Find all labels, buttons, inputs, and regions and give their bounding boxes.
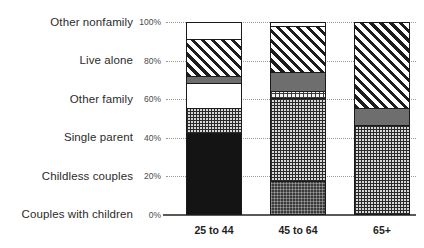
segment-single-parent <box>271 73 325 92</box>
segment-live-alone <box>187 40 241 76</box>
bar-25-to-44[interactable] <box>186 22 242 215</box>
segment-couples-with-children <box>187 134 241 214</box>
category-label-other-family: Other family <box>70 93 133 105</box>
segment-other-family <box>355 109 409 126</box>
x-label-45-to-64: 45 to 64 <box>258 224 338 236</box>
segment-childless-couples <box>355 126 409 214</box>
segment-other-family <box>271 92 325 100</box>
bar-65-plus[interactable] <box>354 22 410 215</box>
segment-couples-with-children <box>271 182 325 214</box>
y-tick-40: 40% <box>144 133 161 143</box>
segment-childless-couples <box>271 99 325 181</box>
category-label-live-alone: Live alone <box>80 54 133 66</box>
segment-single-parent <box>187 77 241 85</box>
segment-other-nonfamily <box>187 23 241 40</box>
category-legend-labels: Other nonfamily Live alone Other family … <box>0 0 133 216</box>
bar-45-to-64[interactable] <box>270 22 326 215</box>
plot-area <box>166 22 416 215</box>
category-label-single-parent: Single parent <box>64 131 133 143</box>
stacked-bar-chart: Other nonfamily Live alone Other family … <box>0 0 424 248</box>
y-tick-20: 20% <box>144 171 161 181</box>
x-label-25-to-44: 25 to 44 <box>174 224 254 236</box>
segment-live-alone <box>271 27 325 73</box>
y-tick-80: 80% <box>144 56 161 66</box>
category-label-couples-with-children: Couples with children <box>22 208 133 220</box>
bar-group <box>166 22 416 215</box>
x-label-65-plus: 65+ <box>342 224 422 236</box>
y-tick-0: 0% <box>149 210 161 220</box>
segment-live-alone <box>355 23 409 109</box>
x-axis-labels: 25 to 44 45 to 64 65+ <box>166 224 416 244</box>
category-label-other-nonfamily: Other nonfamily <box>50 16 133 28</box>
y-tick-60: 60% <box>144 94 161 104</box>
y-axis-ticks: 100% 80% 60% 40% 20% 0% <box>133 0 163 216</box>
y-tick-100: 100% <box>139 17 161 27</box>
segment-other-family <box>187 84 241 109</box>
segment-childless-couples <box>187 109 241 134</box>
category-label-childless-couples: Childless couples <box>42 170 133 182</box>
